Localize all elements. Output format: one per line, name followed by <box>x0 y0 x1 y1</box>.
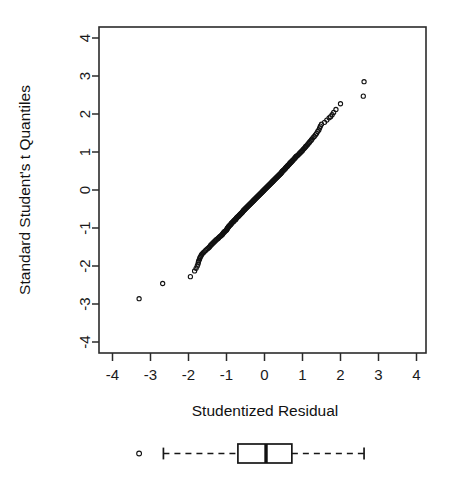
y-tick-label: 2 <box>76 110 93 118</box>
y-tick-label: -3 <box>76 297 93 310</box>
qq-plot-svg: Standard Student's t Quantiles -4-3-2-10… <box>0 0 453 488</box>
y-tick-label: 0 <box>76 186 93 194</box>
y-axis-title: Standard Student's t Quantiles <box>16 85 33 295</box>
x-tick-label: 2 <box>336 366 344 383</box>
x-tick-label: -1 <box>220 366 233 383</box>
y-tick-label: -4 <box>76 335 93 348</box>
y-tick-label: -1 <box>76 221 93 234</box>
y-tick-label: 3 <box>76 72 93 80</box>
x-tick-label: -2 <box>182 366 195 383</box>
y-tick-label: -2 <box>76 259 93 272</box>
x-tick-label: -4 <box>106 366 119 383</box>
x-axis-title: Studentized Residual <box>192 402 339 419</box>
x-tick-label: -3 <box>144 366 157 383</box>
y-tick-label: 1 <box>76 148 93 156</box>
x-tick-label: 4 <box>412 366 420 383</box>
qq-plot-figure: Standard Student's t Quantiles -4-3-2-10… <box>0 0 453 488</box>
x-tick-label: 1 <box>298 366 306 383</box>
x-tick-label: 3 <box>374 366 382 383</box>
y-tick-label: 4 <box>76 34 93 42</box>
x-tick-label: 0 <box>260 366 268 383</box>
